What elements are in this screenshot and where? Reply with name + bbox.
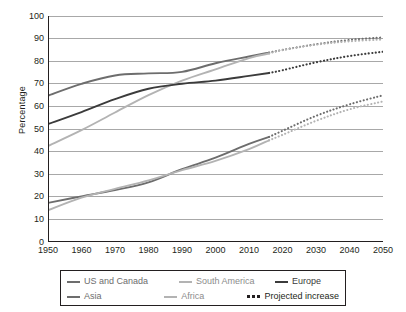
legend-swatch-icon bbox=[67, 292, 80, 301]
series-line-us-and-canada bbox=[48, 53, 269, 96]
series-projection-europe bbox=[269, 52, 383, 73]
legend-item-africa[interactable]: Africa bbox=[164, 292, 247, 301]
plot-area bbox=[48, 16, 383, 242]
y-tick-label: 30 bbox=[20, 170, 44, 179]
plot-svg bbox=[48, 16, 383, 242]
y-tick-label: 90 bbox=[20, 34, 44, 43]
series-line-south-america bbox=[48, 54, 269, 146]
chart-legend: US and CanadaSouth AmericaEuropeAsiaAfri… bbox=[60, 270, 346, 306]
legend-swatch-icon bbox=[247, 292, 260, 301]
legend-row: US and CanadaSouth AmericaEurope bbox=[67, 274, 339, 289]
legend-item-asia[interactable]: Asia bbox=[67, 292, 164, 301]
legend-label: US and Canada bbox=[84, 277, 148, 286]
legend-item-europe[interactable]: Europe bbox=[275, 277, 321, 286]
legend-item-south-america[interactable]: South America bbox=[179, 277, 275, 286]
legend-swatch-icon bbox=[67, 277, 80, 286]
y-tick-label: 70 bbox=[20, 79, 44, 88]
series-line-europe bbox=[48, 73, 269, 124]
legend-label: Africa bbox=[181, 292, 204, 301]
y-axis-tick-labels: 0102030405060708090100 bbox=[18, 16, 44, 242]
y-tick-label: 80 bbox=[20, 57, 44, 66]
series-projection-south-america bbox=[269, 40, 383, 54]
legend-label: South America bbox=[196, 277, 255, 286]
series-line-asia bbox=[48, 137, 269, 203]
legend-label: Projected increase bbox=[264, 292, 339, 301]
series-line-africa bbox=[48, 140, 269, 210]
series-projection-africa bbox=[269, 101, 383, 140]
legend-row: AsiaAfricaProjected increase bbox=[67, 289, 339, 304]
y-tick-label: 60 bbox=[20, 102, 44, 111]
y-tick-label: 10 bbox=[20, 215, 44, 224]
legend-item-projected-increase[interactable]: Projected increase bbox=[247, 292, 339, 301]
legend-swatch-icon bbox=[275, 277, 288, 286]
legend-label: Europe bbox=[292, 277, 321, 286]
x-tick-label: 2050 bbox=[363, 246, 403, 255]
y-tick-label: 50 bbox=[20, 125, 44, 134]
x-axis-tick-labels: 1950196019701980199020002010202020302040… bbox=[48, 246, 383, 260]
y-tick-label: 20 bbox=[20, 192, 44, 201]
legend-label: Asia bbox=[84, 292, 102, 301]
y-tick-label: 100 bbox=[20, 12, 44, 21]
legend-item-us-and-canada[interactable]: US and Canada bbox=[67, 277, 179, 286]
series-projection-asia bbox=[269, 95, 383, 137]
line-chart-figure: Percentage 0102030405060708090100 195019… bbox=[0, 0, 406, 312]
legend-swatch-icon bbox=[179, 277, 192, 286]
legend-swatch-icon bbox=[164, 292, 177, 301]
y-tick-label: 40 bbox=[20, 147, 44, 156]
